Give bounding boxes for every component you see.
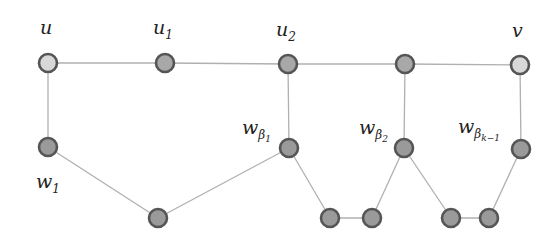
edge-wb2-c [404, 148, 451, 218]
node-wbk [512, 140, 530, 158]
node-wb1 [280, 139, 298, 157]
edge-x3-v [405, 64, 520, 65]
edge-d-wbk [489, 149, 521, 218]
edge-wb1-a [289, 148, 330, 218]
label-w-beta-k-1: wβk−1 [458, 117, 500, 143]
label-w1: w1 [36, 172, 60, 195]
node-c [442, 209, 460, 227]
edge-b-wb2 [372, 148, 404, 218]
edge-wb2-x3 [404, 64, 405, 148]
graph-nodes [39, 54, 530, 227]
node-u2 [279, 55, 297, 73]
label-u1: u1 [153, 18, 173, 41]
edge-wb1-u2 [288, 64, 289, 148]
node-w1 [39, 138, 57, 156]
edge-wbk-v [520, 65, 521, 149]
node-wb2 [395, 139, 413, 157]
node-a [321, 209, 339, 227]
node-v [511, 56, 529, 74]
label-w-beta2: wβ2 [359, 118, 388, 144]
label-v: v [512, 21, 523, 40]
node-m1 [149, 209, 167, 227]
node-b [363, 209, 381, 227]
node-u1 [156, 54, 174, 72]
node-x3 [396, 55, 414, 73]
label-u: u [40, 18, 52, 37]
edge-m1-wb1 [158, 148, 289, 218]
node-u [39, 54, 57, 72]
label-u2: u2 [276, 20, 296, 43]
label-w-beta1: wβ1 [242, 118, 271, 144]
edge-u1-u2 [165, 63, 288, 64]
edge-w1-m1 [48, 147, 158, 218]
node-d [480, 209, 498, 227]
